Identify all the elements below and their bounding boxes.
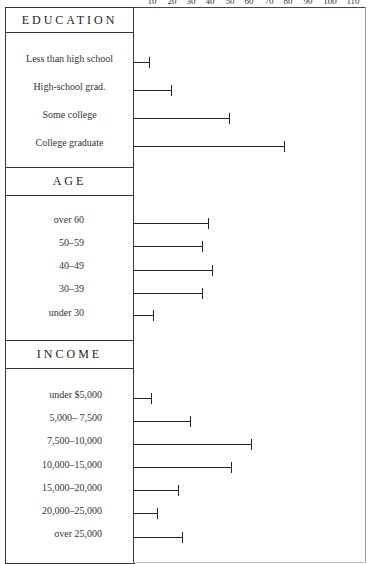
bar [134, 513, 157, 514]
bar-end-cap [208, 218, 209, 229]
x-tick: 80 [284, 0, 293, 6]
category-label: 20,000–25,000 [20, 505, 102, 516]
category-label: under 30 [20, 307, 84, 318]
bar [134, 444, 251, 445]
bar-end-cap [202, 241, 203, 252]
bar-end-cap [284, 141, 285, 152]
chart-top-border [133, 7, 366, 8]
bar-end-cap [251, 439, 252, 450]
bar-end-cap [190, 416, 191, 427]
bar [134, 315, 154, 316]
section-divider [5, 32, 134, 33]
bar-end-cap [182, 532, 183, 543]
category-label: 30–39 [20, 283, 84, 294]
bar-end-cap [151, 393, 152, 404]
bar [134, 118, 230, 119]
category-label: 7,500–10,000 [20, 435, 102, 446]
x-tick: 30 [187, 0, 196, 6]
x-tick: 50 [226, 0, 235, 6]
bar-end-cap [171, 85, 172, 96]
x-axis-ticks: 10 20 30 40 50 60 70 80 90 100 110 [0, 0, 367, 6]
bar [134, 223, 208, 224]
category-label: 40–49 [20, 260, 84, 271]
x-tick: 10 [148, 0, 157, 6]
x-tick: 20 [168, 0, 177, 6]
bar-end-cap [229, 113, 230, 124]
section-header-education: EDUCATION [5, 13, 134, 28]
category-label: Some college [5, 109, 134, 120]
section-header-age: AGE [5, 174, 134, 189]
section-divider [5, 368, 134, 369]
bar-end-cap [202, 288, 203, 299]
category-label: over 25,000 [20, 528, 102, 539]
section-divider [5, 340, 134, 341]
section-divider [5, 167, 134, 168]
bar-end-cap [153, 310, 154, 321]
category-label: High-school grad. [5, 81, 134, 92]
x-tick: 90 [304, 0, 313, 6]
x-tick: 110 [346, 0, 359, 6]
x-tick: 70 [265, 0, 274, 6]
category-label: 5,000– 7,500 [20, 412, 102, 423]
category-label: 10,000–15,000 [20, 459, 102, 470]
section-header-income: INCOME [5, 347, 134, 362]
bar [134, 146, 284, 147]
category-label: 50–59 [20, 237, 84, 248]
bar [134, 293, 202, 294]
bar [134, 246, 202, 247]
bar-end-cap [149, 57, 150, 68]
category-label: Less than high school [5, 53, 134, 64]
bar [134, 537, 183, 538]
bar [134, 421, 191, 422]
bar [134, 90, 171, 91]
bar [134, 398, 152, 399]
chart-right-border [365, 7, 366, 563]
bar [134, 62, 150, 63]
bar-end-cap [212, 265, 213, 276]
category-label: 15,000–20,000 [20, 482, 102, 493]
category-label: College graduate [5, 137, 134, 148]
section-divider [5, 195, 134, 196]
x-tick: 40 [206, 0, 215, 6]
bar [134, 490, 179, 491]
x-tick: 100 [323, 0, 337, 6]
x-tick: 60 [245, 0, 254, 6]
bar-end-cap [157, 508, 158, 519]
category-label: over 60 [20, 214, 84, 225]
bar-end-cap [231, 462, 232, 473]
chart-bottom-border [133, 562, 366, 563]
bar [134, 467, 232, 468]
bar-end-cap [178, 485, 179, 496]
category-label: under $5,000 [20, 389, 102, 400]
bar [134, 270, 212, 271]
